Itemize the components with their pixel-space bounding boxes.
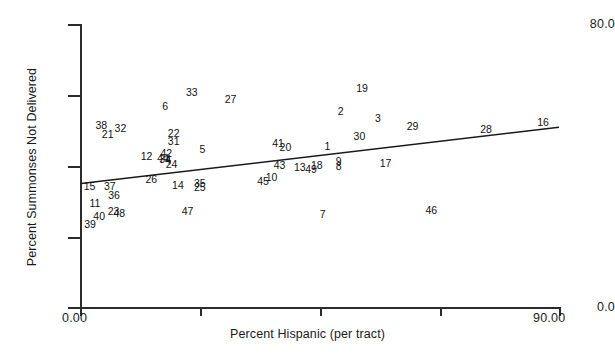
data-point-label: 31 — [168, 135, 180, 146]
data-point-label: 5 — [199, 144, 205, 155]
data-point-label: 39 — [84, 219, 96, 230]
data-point-label: 14 — [172, 179, 184, 190]
data-point-label: 26 — [145, 174, 157, 185]
data-point-label: 7 — [320, 209, 326, 220]
data-point-label: 45 — [257, 176, 269, 187]
data-point-label: 12 — [141, 150, 153, 161]
data-point-label: 29 — [407, 121, 419, 132]
plot-area: 3327196233832212928162231304120151242443… — [0, 0, 615, 355]
data-point-label: 11 — [89, 198, 100, 209]
data-point-label: 3 — [375, 113, 381, 124]
data-point-label: 32 — [115, 123, 127, 134]
data-point-label: 47 — [182, 206, 194, 217]
data-point-label: 21 — [102, 129, 114, 140]
data-point-label: 25 — [194, 182, 206, 193]
data-point-label: 8 — [336, 161, 342, 172]
data-point-label: 19 — [356, 83, 368, 94]
data-point-label: 20 — [280, 142, 292, 153]
data-point-label: 15 — [84, 180, 96, 191]
data-point-label: 36 — [108, 190, 120, 201]
data-point-label: 2 — [338, 106, 344, 117]
data-point-label: 46 — [425, 205, 437, 216]
scatter-plot-figure: 80.0 0.0 0.00 90.00 Percent Hispanic (pe… — [0, 0, 615, 355]
data-point-label: 24 — [166, 159, 178, 170]
data-point-label: 6 — [162, 101, 168, 112]
data-point-label: 49 — [305, 164, 317, 175]
data-point-label: 16 — [537, 116, 549, 127]
regression-line — [0, 0, 615, 355]
data-point-label: 13 — [294, 162, 306, 173]
data-point-label: 1 — [325, 140, 331, 151]
data-point-label: 17 — [380, 158, 392, 169]
data-point-label: 43 — [274, 160, 286, 171]
data-point-label: 33 — [186, 87, 198, 98]
data-point-label: 27 — [225, 94, 237, 105]
data-point-label: 48 — [114, 208, 126, 219]
data-point-label: 30 — [354, 131, 366, 142]
data-point-label: 28 — [480, 124, 492, 135]
